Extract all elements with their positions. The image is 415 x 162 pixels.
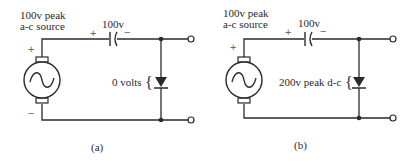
- diode-label: 0 volts: [112, 76, 142, 88]
- caption-a: (a): [91, 141, 104, 154]
- caption-b: (b): [294, 139, 307, 152]
- capacitor-minus: −: [124, 26, 130, 38]
- junction-dot-icon: [357, 116, 362, 121]
- capacitor-minus: −: [320, 25, 326, 37]
- junction-dot-icon: [159, 118, 164, 123]
- source-minus: −: [28, 107, 34, 119]
- brace: {: [145, 74, 153, 91]
- capacitor-label: 100v: [298, 17, 321, 29]
- capacitor-label: 100v: [102, 18, 125, 30]
- ac-source-icon: [226, 57, 262, 103]
- diode-label: 200v peak d-c: [279, 76, 341, 88]
- terminal-icon: [390, 36, 396, 42]
- terminal-icon: [188, 117, 194, 123]
- source-label-line2: a-c source: [20, 20, 65, 32]
- brace: {: [345, 74, 353, 91]
- capacitor-plus: +: [285, 26, 291, 38]
- junction-dot-icon: [357, 37, 362, 42]
- junction-dot-icon: [159, 37, 164, 42]
- terminal-icon: [390, 115, 396, 121]
- source-plus: +: [230, 41, 236, 53]
- terminal-icon: [188, 36, 194, 42]
- capacitor-icon: [305, 32, 312, 46]
- circuit-figure: 100v peak a-c source + − + 100v −: [0, 0, 415, 162]
- diode-icon: [154, 77, 168, 88]
- panel-a: 100v peak a-c source + − + 100v −: [20, 9, 194, 154]
- ac-source-icon: [24, 57, 60, 103]
- source-label-line2: a-c source: [223, 18, 268, 30]
- source-plus: +: [28, 43, 34, 55]
- panel-b: 100v peak a-c source + + 100v − 200v pea…: [223, 7, 396, 152]
- capacitor-plus: +: [90, 27, 96, 39]
- diode-icon: [352, 77, 366, 88]
- capacitor-icon: [110, 32, 117, 46]
